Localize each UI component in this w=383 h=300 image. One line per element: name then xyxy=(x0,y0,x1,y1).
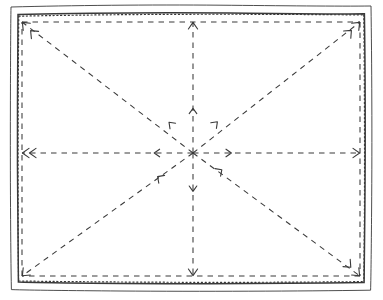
ray-down-right xyxy=(193,153,360,276)
ray-up-left xyxy=(22,22,193,153)
ray-down-left xyxy=(22,153,193,276)
hand-drawn-double-border xyxy=(10,5,372,291)
center-dot xyxy=(192,152,194,154)
border-inner-line xyxy=(17,13,365,284)
ray-up-right xyxy=(193,22,360,153)
arrowhead-down-right-tip xyxy=(352,268,360,276)
figure-canvas: Hand-drawn rectangular enclosure with ra… xyxy=(0,0,383,300)
border-outer-line xyxy=(10,5,372,291)
radiating-center-node xyxy=(192,152,194,154)
arrowhead-down-right-inner xyxy=(215,169,222,177)
dashed-perimeter-rectangle xyxy=(22,22,360,276)
sketch-diagram xyxy=(0,0,383,300)
arrowhead-up-left-inner xyxy=(169,122,176,129)
radiating-rays xyxy=(22,22,360,276)
arrowhead-up-left-tip-second xyxy=(31,31,39,39)
arrowhead-down-left-inner xyxy=(158,175,165,183)
arrowhead-up-right-inner xyxy=(211,122,218,129)
arrowhead-down-left-tip xyxy=(22,268,30,276)
